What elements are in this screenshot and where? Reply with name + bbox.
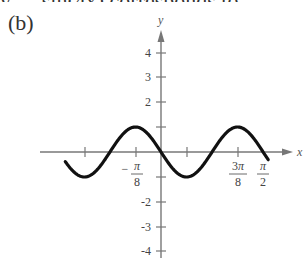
- y-tick-label: 3: [145, 70, 151, 84]
- chart: x y 4 3 2 -2 -3 -4 − π 8 3π 8: [0, 0, 307, 263]
- y-axis-label: y: [157, 13, 164, 27]
- x-axis-arrow-icon: [282, 149, 293, 156]
- y-axis-arrow-icon: [158, 30, 165, 42]
- y-tick-label: 4: [145, 46, 151, 60]
- x-tick-label-3pi-over-8: 3π 8: [229, 159, 247, 189]
- x-tick-label-pi-over-2: π 2: [257, 159, 269, 189]
- svg-text:π: π: [134, 159, 141, 173]
- svg-text:8: 8: [235, 175, 241, 189]
- svg-text:−: −: [122, 162, 129, 176]
- svg-text:3π: 3π: [232, 159, 245, 173]
- y-axis: y 4 3 2 -2 -3 -4: [141, 13, 166, 258]
- svg-text:2: 2: [260, 175, 266, 189]
- svg-text:8: 8: [134, 175, 140, 189]
- svg-text:π: π: [260, 159, 267, 173]
- x-axis-label: x: [296, 145, 303, 159]
- y-tick-label: -3: [141, 220, 151, 234]
- y-tick-label: 2: [145, 95, 151, 109]
- y-tick-label: -2: [141, 195, 151, 209]
- y-tick-label: -4: [141, 244, 151, 258]
- x-tick-label-neg-pi-over-8: − π 8: [122, 159, 143, 189]
